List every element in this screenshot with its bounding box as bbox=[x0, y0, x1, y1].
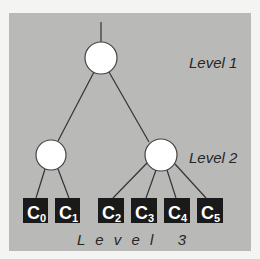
leaf-c5: C5 bbox=[197, 198, 223, 224]
edge-left-c1 bbox=[58, 169, 69, 198]
root-node bbox=[85, 42, 117, 74]
edge-right-c3 bbox=[146, 170, 156, 198]
leaf-c4: C4 bbox=[164, 198, 190, 224]
level-3-label: L e v e l 3 bbox=[77, 231, 189, 248]
edges bbox=[36, 22, 206, 198]
edge-root-left bbox=[58, 72, 94, 141]
right-internal-node bbox=[145, 139, 177, 171]
edge-right-c5 bbox=[175, 164, 206, 198]
edge-right-c4 bbox=[167, 170, 176, 198]
edge-left-c0 bbox=[36, 169, 45, 198]
level-1-label: Level 1 bbox=[189, 54, 237, 71]
leaf-c3: C3 bbox=[131, 198, 157, 224]
leaf-nodes: C0 C1 C2 C3 C4 C5 bbox=[23, 198, 223, 224]
leaf-c1: C1 bbox=[55, 198, 80, 224]
edge-root-right bbox=[109, 72, 149, 142]
level-2-label: Level 2 bbox=[189, 149, 238, 166]
leaf-c2: C2 bbox=[98, 198, 124, 224]
leaf-c0: C0 bbox=[23, 198, 48, 224]
edge-right-c2 bbox=[113, 163, 147, 198]
left-internal-node bbox=[36, 140, 66, 170]
tree-diagram: C0 C1 C2 C3 C4 C5 Level 1 Level 2 L e v … bbox=[0, 0, 260, 259]
